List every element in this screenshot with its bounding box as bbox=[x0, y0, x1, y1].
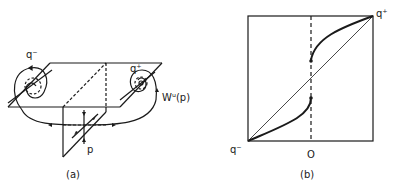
figure: q⁻ q⁺ Wᵘ(p) p (a) q⁻ q⁺ O (b) bbox=[0, 0, 395, 192]
label-origin: O bbox=[307, 149, 315, 160]
label-q-plus-b: q⁺ bbox=[376, 8, 388, 19]
saddle-point-p bbox=[72, 110, 98, 144]
q-minus-spiral bbox=[8, 66, 52, 110]
label-q-minus-b: q⁻ bbox=[230, 144, 242, 155]
lower-endpoint bbox=[309, 96, 313, 100]
caption-a: (a) bbox=[66, 169, 80, 180]
q-plus-spiral bbox=[120, 70, 156, 100]
upper-curve bbox=[311, 16, 373, 60]
lower-curve bbox=[248, 98, 311, 141]
label-q-minus: q⁻ bbox=[26, 49, 38, 60]
upper-endpoint bbox=[309, 59, 313, 63]
label-q-plus: q⁺ bbox=[130, 63, 142, 74]
label-unstable-manifold: Wᵘ(p) bbox=[162, 92, 190, 103]
label-saddle-p: p bbox=[87, 144, 93, 155]
caption-b: (b) bbox=[300, 169, 314, 180]
panel-a bbox=[8, 63, 162, 157]
panel-b bbox=[248, 16, 373, 141]
